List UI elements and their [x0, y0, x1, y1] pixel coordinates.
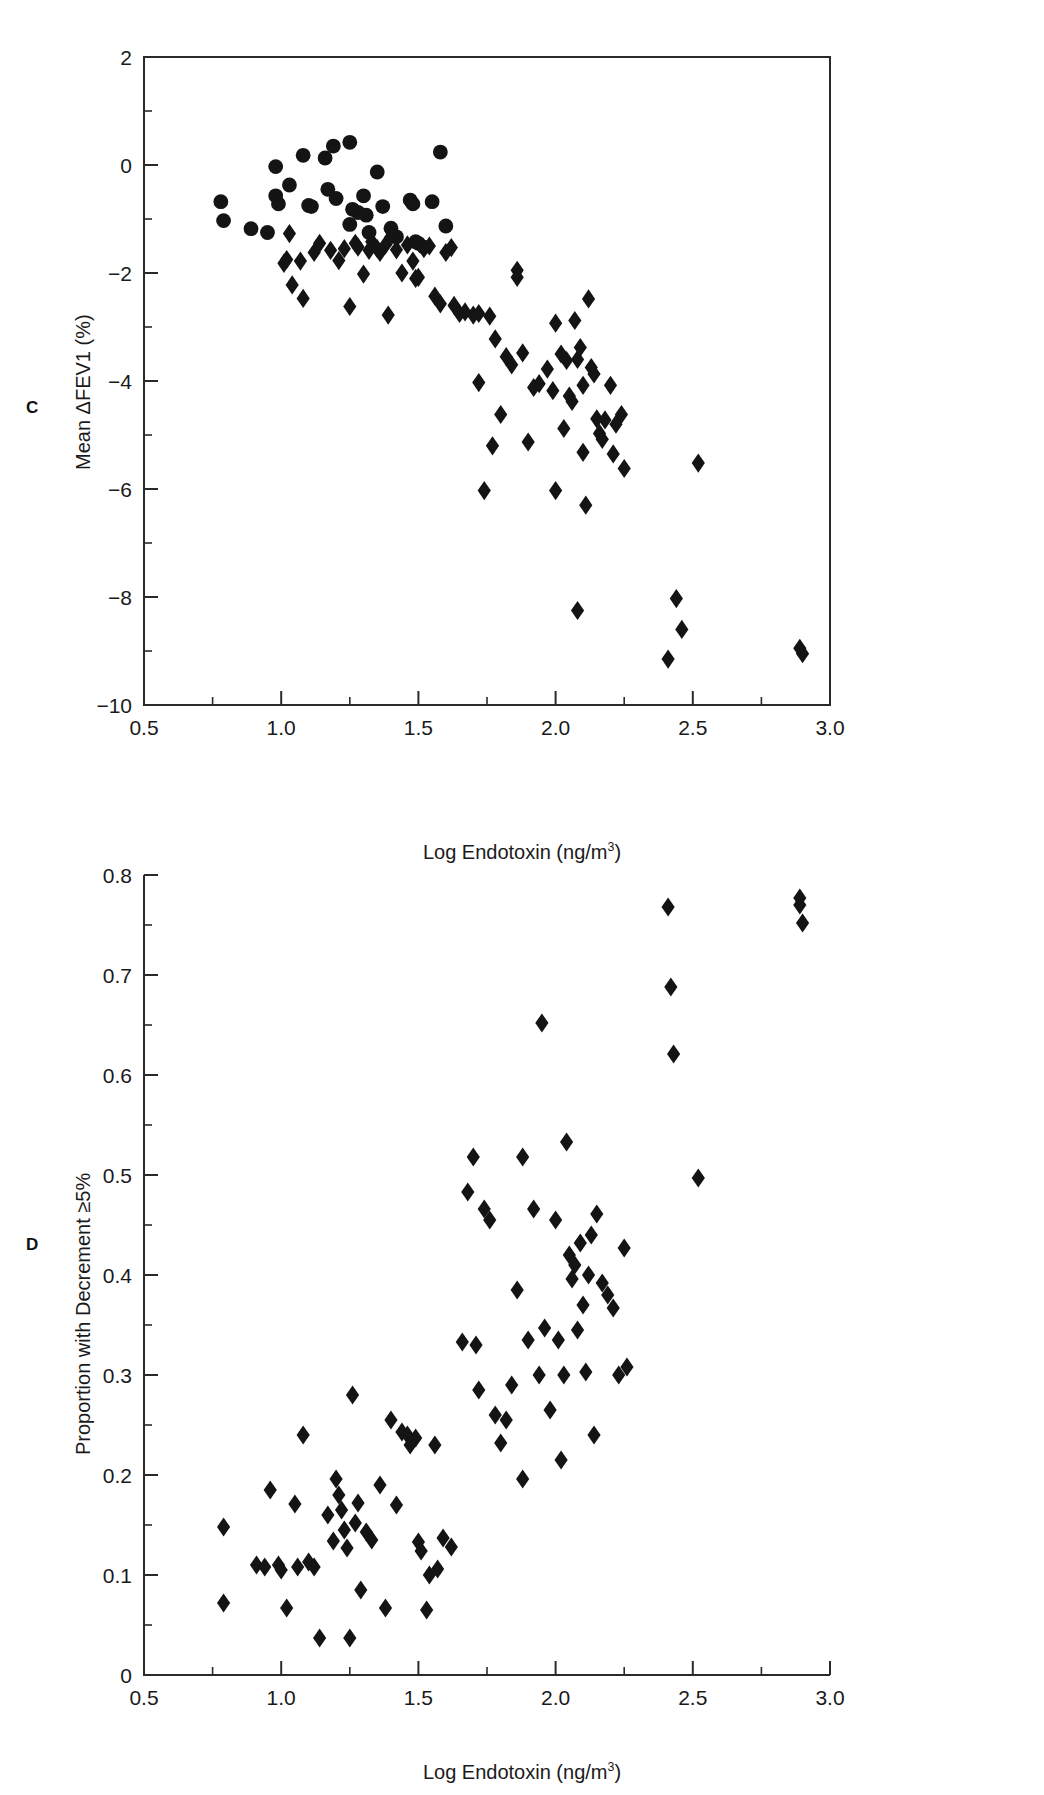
data-point-circle: [326, 139, 341, 154]
panel-c: C Mean ΔFEV1 (%) Log Endotoxin (ng/m3) 2…: [0, 0, 1044, 900]
y-tick-label: 0: [120, 1664, 132, 1687]
y-tick-label: 0: [120, 154, 132, 177]
data-point-diamond: [335, 1500, 348, 1519]
data-point-diamond: [420, 1600, 433, 1619]
data-point-diamond: [483, 307, 496, 326]
data-point-diamond: [346, 1385, 359, 1404]
data-point-diamond: [579, 1362, 592, 1381]
data-point-diamond: [456, 1332, 469, 1351]
y-tick-label: 0.4: [103, 1264, 133, 1287]
data-point-circle: [433, 145, 448, 160]
y-tick-label: −4: [108, 370, 132, 393]
data-point-circle: [244, 221, 259, 236]
data-point-diamond: [340, 1538, 353, 1557]
data-point-diamond: [549, 314, 562, 333]
data-point-diamond: [505, 1375, 518, 1394]
data-point-diamond: [511, 1280, 524, 1299]
data-point-diamond: [796, 913, 809, 932]
data-point-diamond: [343, 1628, 356, 1647]
data-point-diamond: [554, 1450, 567, 1469]
data-point-diamond: [406, 252, 419, 271]
x-tick-label: 2.0: [541, 1686, 570, 1709]
data-point-diamond: [494, 405, 507, 424]
data-point-diamond: [579, 496, 592, 515]
y-tick-label: 2: [120, 46, 132, 69]
data-point-diamond: [557, 1365, 570, 1384]
data-point-diamond: [469, 1335, 482, 1354]
data-point-diamond: [549, 481, 562, 500]
data-point-diamond: [607, 444, 620, 463]
data-point-diamond: [428, 1435, 441, 1454]
data-point-diamond: [516, 1147, 529, 1166]
data-point-circle: [370, 165, 385, 180]
data-point-circle: [260, 225, 275, 240]
data-point-diamond: [472, 1380, 485, 1399]
data-point-diamond: [384, 1410, 397, 1429]
data-point-diamond: [535, 1013, 548, 1032]
data-point-circle: [438, 219, 453, 234]
data-point-diamond: [297, 1425, 310, 1444]
data-point-circle: [304, 199, 319, 214]
data-point-diamond: [544, 1400, 557, 1419]
data-point-diamond: [489, 1405, 502, 1424]
x-tick-label: 1.0: [267, 1686, 296, 1709]
data-point-diamond: [478, 481, 491, 500]
data-point-diamond: [527, 1199, 540, 1218]
x-tick-label: 3.0: [815, 716, 844, 739]
data-point-circle: [329, 191, 344, 206]
y-tick-label: 0.7: [103, 964, 132, 987]
data-point-diamond: [522, 432, 535, 451]
data-point-diamond: [382, 306, 395, 325]
y-tick-label: 0.3: [103, 1364, 132, 1387]
data-point-diamond: [662, 650, 675, 669]
data-point-diamond: [576, 1295, 589, 1314]
data-point-diamond: [283, 224, 296, 243]
data-point-diamond: [516, 343, 529, 362]
data-point-diamond: [286, 275, 299, 294]
x-tick-label: 2.0: [541, 716, 570, 739]
data-point-diamond: [351, 1493, 364, 1512]
data-point-circle: [425, 194, 440, 209]
data-point-diamond: [321, 1505, 334, 1524]
data-point-diamond: [585, 1225, 598, 1244]
data-point-diamond: [313, 1628, 326, 1647]
data-point-circle: [268, 159, 283, 174]
y-tick-label: −6: [108, 478, 132, 501]
data-point-diamond: [538, 1318, 551, 1337]
data-point-circle: [406, 196, 421, 211]
data-point-circle: [282, 178, 297, 193]
x-tick-label: 1.5: [404, 1686, 433, 1709]
data-point-diamond: [552, 1330, 565, 1349]
panel-d: D Proportion with Decrement ≥5% Log Endo…: [0, 855, 1044, 1795]
data-point-diamond: [461, 1182, 474, 1201]
y-tick-label: −8: [108, 586, 132, 609]
data-point-circle: [356, 188, 371, 203]
data-point-diamond: [565, 1269, 578, 1288]
data-point-diamond: [500, 1410, 513, 1429]
data-point-diamond: [522, 1330, 535, 1349]
data-point-diamond: [604, 376, 617, 395]
data-point-diamond: [494, 1433, 507, 1452]
y-tick-label: 0.8: [103, 864, 132, 887]
x-tick-label: 3.0: [815, 1686, 844, 1709]
y-tick-label: 0.6: [103, 1064, 132, 1087]
y-tick-label: 0.1: [103, 1564, 132, 1587]
data-point-diamond: [373, 1475, 386, 1494]
data-point-diamond: [327, 1531, 340, 1550]
y-tick-label: 0.2: [103, 1464, 132, 1487]
data-point-diamond: [329, 1469, 342, 1488]
data-point-diamond: [217, 1593, 230, 1612]
data-point-diamond: [587, 1425, 600, 1444]
data-point-diamond: [516, 1469, 529, 1488]
x-tick-label: 1.0: [267, 716, 296, 739]
data-point-diamond: [560, 1132, 573, 1151]
x-tick-label: 2.5: [678, 716, 707, 739]
data-point-diamond: [546, 381, 559, 400]
x-tick-label: 2.5: [678, 1686, 707, 1709]
panel-d-plot: 0.80.70.60.50.40.30.20.100.51.01.52.02.5…: [0, 855, 1044, 1795]
data-point-diamond: [541, 360, 554, 379]
data-point-diamond: [395, 263, 408, 282]
data-point-circle: [375, 199, 390, 214]
data-point-diamond: [280, 1598, 293, 1617]
data-point-diamond: [618, 459, 631, 478]
